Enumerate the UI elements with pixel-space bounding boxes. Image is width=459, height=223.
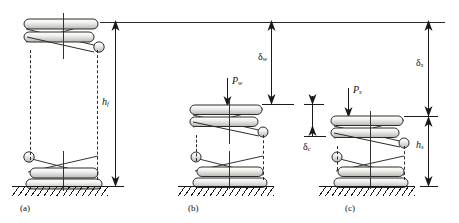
- dim-hf-arrow-up: [110, 20, 121, 32]
- dim-deltaw-extension: [262, 104, 294, 105]
- dim-deltac-tick-bottom: [304, 136, 326, 137]
- panel-b-axis-lower: [229, 151, 230, 189]
- panel-caption-b: (b): [188, 203, 199, 213]
- label-delta-s-sub: s: [421, 61, 424, 68]
- label-P-s: Ps: [353, 85, 362, 96]
- dim-hs-tick-bottom: [420, 186, 438, 187]
- dim-hf-tick-bottom: [108, 186, 124, 187]
- dim-hf-line: [115, 22, 116, 186]
- panel-a-axis-upper: [63, 13, 64, 59]
- panel-c-projection-left: [337, 146, 338, 170]
- label-delta-w: δw: [258, 52, 267, 63]
- label-h-s: hs: [416, 140, 424, 151]
- label-h-s-sub: s: [421, 143, 424, 150]
- panel-c-projection-right: [404, 146, 405, 180]
- panel-a-axis-lower: [63, 151, 64, 191]
- label-delta-w-sub: w: [263, 55, 267, 62]
- dim-deltaw-line: [271, 22, 272, 104]
- panel-caption-a: (a): [20, 203, 30, 213]
- label-P-w: Pw: [232, 76, 243, 87]
- panel-a-projection-left: [30, 50, 31, 160]
- label-h-f-sub: f: [107, 100, 109, 107]
- dim-deltas-arrow-up: [423, 20, 434, 32]
- panel-a-projection-right: [97, 50, 98, 180]
- panel-c-axis: [370, 111, 371, 189]
- dim-hs-arrow-up: [423, 116, 434, 128]
- dim-deltaw-arrow-up: [266, 20, 277, 32]
- panel-b-projection-left: [196, 135, 197, 161]
- dim-deltas-line: [428, 22, 429, 116]
- panel-c-ground-hatch: [319, 187, 415, 196]
- label-P-s-sub: s: [359, 88, 362, 95]
- panel-b-ground-hatch: [178, 187, 274, 196]
- panel-a-ground-hatch: [12, 187, 108, 196]
- label-delta-c: δc: [303, 142, 311, 153]
- panel-caption-c: (c): [345, 203, 355, 213]
- panel-b-axis-upper: [229, 100, 230, 144]
- label-delta-c-sub: c: [308, 145, 311, 152]
- label-P-w-sub: w: [238, 79, 242, 86]
- panel-b-projection-right: [263, 135, 264, 180]
- label-delta-s: δs: [416, 58, 423, 69]
- label-h-f: hf: [102, 97, 109, 108]
- spring-deflection-figure: hf (a) Pw: [0, 0, 459, 223]
- dim-deltac-tick-top: [304, 104, 324, 105]
